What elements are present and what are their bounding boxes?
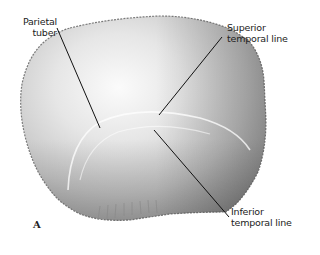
label-line: temporal line bbox=[227, 33, 288, 44]
label-inferior-temporal-line: Inferior temporal line bbox=[231, 206, 292, 228]
bone-shape bbox=[21, 16, 266, 220]
label-line: Parietal bbox=[15, 16, 57, 27]
label-parietal-tuber: Parietal tuber bbox=[15, 16, 57, 38]
label-line: Inferior bbox=[231, 206, 292, 217]
label-line: Superior bbox=[227, 22, 288, 33]
label-line: temporal line bbox=[231, 217, 292, 228]
label-superior-temporal-line: Superior temporal line bbox=[227, 22, 288, 44]
label-line: tuber bbox=[15, 27, 57, 38]
panel-letter: A bbox=[33, 219, 41, 230]
